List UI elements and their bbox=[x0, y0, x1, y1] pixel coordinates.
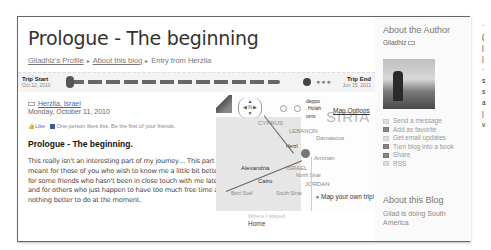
share-link[interactable]: Share bbox=[383, 151, 454, 160]
blog-description: Gilad is doing South America bbox=[383, 209, 467, 227]
trip-start-date: Oct 12, 2010 bbox=[22, 82, 51, 88]
zoom-out-icon[interactable] bbox=[280, 105, 287, 112]
map-label-aleppo: deppo bbox=[306, 98, 320, 104]
map-location-pin-icon[interactable] bbox=[301, 149, 310, 158]
like-button[interactable]: 👍Like bbox=[28, 123, 45, 129]
rss-link[interactable]: RSS bbox=[383, 160, 454, 169]
post-body: This really isn't an interesting part of… bbox=[28, 157, 228, 206]
location-link[interactable]: Herzlia, Israel bbox=[38, 100, 81, 107]
camera-icon[interactable] bbox=[303, 78, 311, 86]
book-icon bbox=[383, 144, 389, 149]
turn-into-book-link[interactable]: Turn blog into a book bbox=[383, 143, 454, 152]
about-author-title: About the Author bbox=[383, 25, 450, 35]
trip-timeline: Trip Start Oct 12, 2010 ●●● Trip End Jun… bbox=[18, 72, 375, 92]
facebook-icon bbox=[50, 124, 55, 129]
like-text: One person likes this. Be the first of y… bbox=[57, 123, 176, 129]
trip-map[interactable]: ▲◀ N ▶▼ deppo Holah oms SIRIA Map Option… bbox=[216, 95, 374, 211]
author-actions: Send a message Add as favorite Get email… bbox=[383, 117, 454, 168]
flag-icon bbox=[28, 102, 35, 106]
heart-icon bbox=[383, 127, 389, 132]
map-label-holah: Holah bbox=[308, 105, 321, 111]
timeline-marker-icon[interactable] bbox=[66, 76, 74, 88]
map-label-beni-suef: Beni Suef bbox=[231, 190, 253, 196]
map-your-own-trip-link[interactable]: ♥Map your own trip! bbox=[316, 193, 374, 200]
breadcrumb-profile-link[interactable]: Giladhiz's Profile bbox=[28, 56, 84, 65]
sidebar: About the Author Giladhiz Send a message… bbox=[375, 17, 471, 241]
author-name[interactable]: Giladhiz bbox=[383, 39, 415, 46]
timeline-track[interactable] bbox=[70, 80, 280, 84]
timeline-more-dots[interactable]: ●●● bbox=[316, 78, 332, 85]
blog-entry-page: Prologue - The beginning Giladhiz's Prof… bbox=[17, 16, 470, 242]
email-updates-link[interactable]: Get email updates bbox=[383, 134, 454, 143]
add-favorite-link[interactable]: Add as favorite bbox=[383, 126, 454, 135]
entry-date: Monday, October 11, 2010 bbox=[28, 108, 110, 115]
envelope-icon bbox=[383, 119, 389, 124]
map-label-jordan: JORDAN bbox=[305, 181, 330, 187]
cropped-adjacent-text: ·(||·ssa|v bbox=[482, 20, 491, 130]
entry-location: Herzlia, Israel bbox=[28, 100, 81, 107]
trip-end-date: Jun 15, 2011 bbox=[342, 82, 371, 88]
email-icon bbox=[383, 136, 389, 141]
where-i-stayed-label: Where I stayed bbox=[248, 213, 285, 219]
map-label-cairo: Cairo bbox=[258, 178, 272, 184]
about-blog-title: About this Blog bbox=[383, 195, 444, 205]
breadcrumb-separator: ▸ bbox=[87, 58, 90, 64]
where-i-stayed-value: Home bbox=[248, 220, 265, 227]
map-options-link[interactable]: Map Options bbox=[333, 107, 370, 114]
rss-icon bbox=[383, 161, 389, 166]
page-title: Prologue - The beginning bbox=[28, 27, 259, 49]
map-label-homs: oms bbox=[306, 113, 315, 119]
map-label-alexandria: Alexandria bbox=[241, 165, 269, 171]
breadcrumb-separator: ▸ bbox=[145, 58, 148, 64]
breadcrumb: Giladhiz's Profile▸About this blog▸Entry… bbox=[28, 56, 211, 65]
person-silhouette bbox=[393, 71, 403, 101]
heart-icon: ♥ bbox=[316, 194, 319, 200]
send-message-link[interactable]: Send a message bbox=[383, 117, 454, 126]
facebook-like-row: 👍Like One person likes this. Be the firs… bbox=[28, 123, 175, 129]
main-content: Prologue - The beginning Giladhiz's Prof… bbox=[18, 17, 375, 241]
map-label-lebanon: LEBANON bbox=[289, 128, 318, 134]
zoom-in-icon[interactable] bbox=[294, 105, 301, 112]
map-label-north-sinai: North Sinai bbox=[296, 172, 321, 178]
author-photo[interactable] bbox=[383, 59, 435, 109]
share-icon bbox=[383, 153, 389, 158]
flag-icon bbox=[408, 41, 415, 45]
map-label-amman: Amman bbox=[314, 155, 335, 161]
map-label-south-sinai: South Sinai bbox=[276, 190, 302, 196]
breadcrumb-current: Entry from Herzlia bbox=[151, 56, 211, 65]
post-heading: Prologue - The beginning. bbox=[28, 139, 133, 149]
page-curl-icon[interactable] bbox=[216, 95, 232, 113]
trip-start: Trip Start Oct 12, 2010 bbox=[22, 76, 51, 88]
trip-end: Trip End Jun 15, 2011 bbox=[342, 76, 371, 88]
map-label-damascus: Damascus bbox=[316, 135, 344, 141]
breadcrumb-about-blog-link[interactable]: About this blog bbox=[93, 56, 143, 65]
map-border bbox=[311, 157, 312, 211]
map-pan-control[interactable]: ▲◀ N ▶▼ bbox=[238, 98, 262, 118]
